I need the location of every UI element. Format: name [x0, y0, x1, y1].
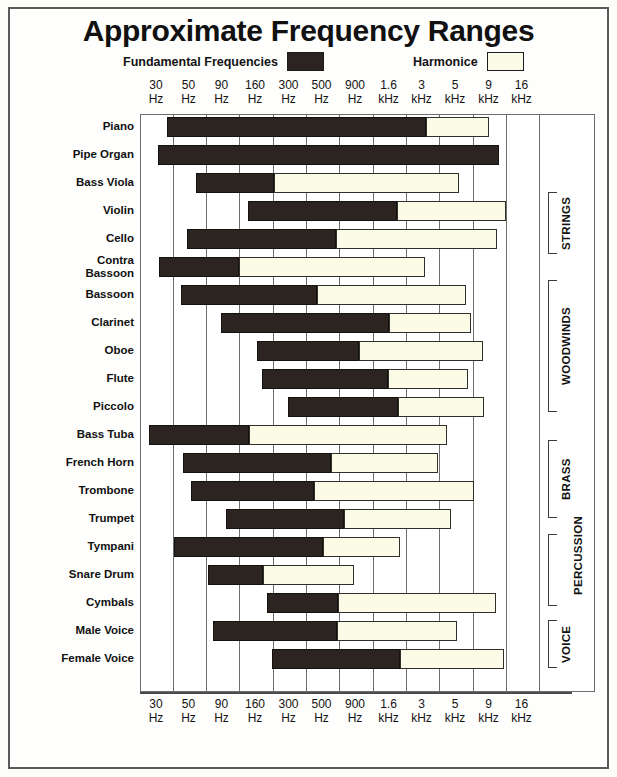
- gridline-1: [206, 115, 207, 691]
- instrument-label: Trombone: [8, 484, 134, 497]
- axis-tick-value: 900: [345, 697, 365, 711]
- bar-fundamental: [191, 481, 314, 501]
- bar-fundamental: [248, 201, 397, 221]
- instrument-label: Oboe: [8, 344, 134, 357]
- bar-fundamental: [159, 257, 239, 277]
- group-bracket-voice: [548, 620, 557, 668]
- gridline-11: [539, 115, 540, 691]
- axis-tick-value: 300: [278, 78, 298, 92]
- bar-fundamental: [262, 369, 388, 389]
- bar-harmonics: [397, 201, 506, 221]
- legend-item-fundamental: Fundamental Frequencies: [123, 52, 324, 71]
- bar-harmonics: [314, 481, 474, 501]
- legend-label-harmonics: Harmonice: [413, 55, 478, 69]
- axis-tick-value: 50: [182, 78, 195, 92]
- axis-tick-value: 90: [215, 697, 228, 711]
- instrument-label: Pipe Organ: [8, 148, 134, 161]
- bar-harmonics: [337, 621, 457, 641]
- bar-fundamental: [187, 229, 336, 249]
- bar-fundamental: [257, 341, 359, 361]
- axis-tick-value: 3: [418, 697, 425, 711]
- instrument-label: Bassoon: [8, 288, 134, 301]
- legend-swatch-fundamental: [287, 52, 324, 71]
- instrument-label: Clarinet: [8, 316, 134, 329]
- group-label-brass: BRASS: [560, 440, 572, 518]
- bar-fundamental: [208, 565, 263, 585]
- bar-harmonics: [359, 341, 483, 361]
- instrument-label: Male Voice: [8, 624, 134, 637]
- legend: Fundamental Frequencies Harmonice: [0, 52, 617, 74]
- group-label-woodwinds: WOODWINDS: [560, 280, 572, 412]
- axis-tick-unit: kHz: [502, 711, 542, 725]
- bar-fundamental: [158, 145, 499, 165]
- instrument-label: Tympani: [8, 540, 134, 553]
- bar-fundamental: [196, 173, 274, 193]
- bar-fundamental: [213, 621, 337, 641]
- bar-harmonics: [398, 397, 484, 417]
- axis-tick-16-kHz: 16kHz: [502, 697, 542, 725]
- group-label-strings: STRINGS: [560, 192, 572, 254]
- axis-line-bottom: [140, 692, 572, 694]
- bar-fundamental: [167, 117, 426, 137]
- bar-harmonics: [338, 593, 496, 613]
- axis-tick-value: 900: [345, 78, 365, 92]
- gridline-2: [239, 115, 240, 691]
- axis-tick-value: 1.6: [380, 697, 397, 711]
- instrument-label: Trumpet: [8, 512, 134, 525]
- axis-tick-value: 90: [215, 78, 228, 92]
- bar-fundamental: [272, 649, 400, 669]
- chart-page: Approximate Frequency Ranges Fundamental…: [0, 0, 617, 777]
- legend-item-harmonics: Harmonice: [413, 52, 524, 71]
- bar-fundamental: [181, 285, 317, 305]
- bar-harmonics: [274, 173, 459, 193]
- bar-fundamental: [267, 593, 338, 613]
- axis-tick-value: 50: [182, 697, 195, 711]
- instrument-label: Flute: [8, 372, 134, 385]
- bar-harmonics: [263, 565, 354, 585]
- group-bracket-strings: [548, 192, 557, 254]
- axis-tick-value: 30: [149, 78, 162, 92]
- axis-tick-unit: kHz: [502, 92, 542, 106]
- axis-tick-value: 5: [452, 78, 459, 92]
- instrument-label: Piccolo: [8, 400, 134, 413]
- instrument-label: Bass Tuba: [8, 428, 134, 441]
- axis-tick-value: 500: [311, 78, 331, 92]
- axis-tick-value: 16: [515, 78, 528, 92]
- axis-tick-value: 16: [515, 697, 528, 711]
- axis-tick-value: 5: [452, 697, 459, 711]
- bar-fundamental: [226, 509, 344, 529]
- instrument-label-column: PianoPipe OrganBass ViolaViolinCelloCont…: [4, 114, 134, 692]
- bar-harmonics: [317, 285, 466, 305]
- gridline-10: [506, 115, 507, 691]
- group-bracket-brass: [548, 440, 557, 518]
- axis-tick-value: 3: [418, 78, 425, 92]
- group-label-voice: VOICE: [560, 620, 572, 668]
- legend-label-fundamental: Fundamental Frequencies: [123, 55, 278, 69]
- page-title: Approximate Frequency Ranges: [0, 14, 617, 48]
- bar-fundamental: [149, 425, 249, 445]
- bar-harmonics: [336, 229, 497, 249]
- group-label-percussion: PERCUSSION: [572, 494, 584, 616]
- bar-fundamental: [221, 313, 389, 333]
- bar-harmonics: [400, 649, 504, 669]
- bar-fundamental: [174, 537, 323, 557]
- bar-harmonics: [426, 117, 489, 137]
- bar-harmonics: [389, 313, 471, 333]
- axis-labels-bottom: 30Hz50Hz90Hz160Hz300Hz500Hz900Hz1.6kHz3k…: [0, 697, 617, 729]
- legend-swatch-harmonics: [487, 52, 524, 71]
- axis-tick-value: 30: [149, 697, 162, 711]
- bar-harmonics: [239, 257, 425, 277]
- bar-harmonics: [388, 369, 468, 389]
- instrument-label: Cymbals: [8, 596, 134, 609]
- axis-tick-value: 9: [485, 78, 492, 92]
- gridline-0: [173, 115, 174, 691]
- instrument-label: Female Voice: [8, 652, 134, 665]
- bar-fundamental: [183, 453, 331, 473]
- bar-harmonics: [331, 453, 438, 473]
- bar-harmonics: [249, 425, 447, 445]
- axis-tick-value: 160: [245, 697, 265, 711]
- instrument-label: Snare Drum: [8, 568, 134, 581]
- group-bracket-woodwinds: [548, 280, 557, 412]
- axis-labels-top: 30Hz50Hz90Hz160Hz300Hz500Hz900Hz1.6kHz3k…: [0, 78, 617, 110]
- instrument-label: Contra Bassoon: [8, 254, 134, 279]
